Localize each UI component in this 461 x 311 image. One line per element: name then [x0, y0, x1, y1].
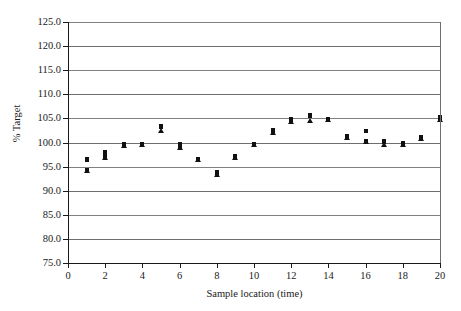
x-axis-tick-label: 4	[127, 270, 157, 281]
x-axis-tick-label: 18	[388, 270, 418, 281]
data-point-triangle	[121, 143, 127, 148]
y-axis-tick	[63, 22, 68, 23]
data-point-square	[85, 158, 89, 162]
y-gridline	[68, 94, 440, 95]
x-axis-tick-label: 20	[425, 270, 455, 281]
x-axis-tick-label: 16	[351, 270, 381, 281]
x-axis-tick-label: 6	[165, 270, 195, 281]
y-axis-tick	[63, 215, 68, 216]
y-axis-tick	[63, 94, 68, 95]
y-axis-tick	[63, 167, 68, 168]
data-point-triangle	[139, 142, 145, 147]
y-gridline	[68, 70, 440, 71]
y-axis-line	[68, 22, 69, 263]
y-gridline	[68, 191, 440, 192]
y-gridline	[68, 22, 440, 23]
y-axis-tick-label: 100.0	[18, 138, 61, 148]
data-point-triangle	[363, 139, 369, 144]
y-axis-tick-label: 125.0	[18, 17, 61, 27]
y-axis-tick	[63, 191, 68, 192]
y-axis-tick-label: 75.0	[18, 258, 61, 268]
x-axis-tick-label: 8	[202, 270, 232, 281]
y-axis-tick-label: 95.0	[18, 162, 61, 172]
data-point-triangle	[177, 145, 183, 150]
y-gridline	[68, 215, 440, 216]
data-point-triangle	[288, 119, 294, 124]
data-point-triangle	[325, 117, 331, 122]
data-point-triangle	[270, 130, 276, 135]
data-point-triangle	[158, 128, 164, 133]
x-axis-tick-label: 0	[53, 270, 83, 281]
data-point-triangle	[195, 157, 201, 162]
y-gridline	[68, 118, 440, 119]
y-axis-tick	[63, 46, 68, 47]
data-point-triangle	[344, 135, 350, 140]
data-point-triangle	[102, 155, 108, 160]
y-axis-tick	[63, 239, 68, 240]
y-axis-tick-label: 80.0	[18, 234, 61, 244]
x-axis-tick-label: 12	[276, 270, 306, 281]
data-point-triangle	[214, 172, 220, 177]
y-axis-tick	[63, 70, 68, 71]
x-axis-tick	[403, 263, 404, 268]
y-axis-tick-label: 110.0	[18, 89, 61, 99]
x-axis-tick-label: 14	[313, 270, 343, 281]
x-axis-tick	[291, 263, 292, 268]
y-axis-tick	[63, 143, 68, 144]
x-axis-tick	[68, 263, 69, 268]
plot-right-border	[440, 22, 441, 263]
y-axis-tick-label: 120.0	[18, 41, 61, 51]
y-axis-tick-label: 85.0	[18, 210, 61, 220]
data-point-square	[364, 129, 368, 133]
y-axis-tick-label: 90.0	[18, 186, 61, 196]
x-axis-tick	[366, 263, 367, 268]
x-axis-tick-label: 10	[239, 270, 269, 281]
y-gridline	[68, 46, 440, 47]
y-axis-tick-label: 105.0	[18, 113, 61, 123]
scatter-chart: % Target Sample location (time) 75.080.0…	[0, 0, 461, 311]
x-axis-title: Sample location (time)	[68, 288, 441, 299]
data-point-triangle	[251, 142, 257, 147]
y-axis-tick	[63, 118, 68, 119]
data-point-triangle	[84, 168, 90, 173]
y-axis-tick-label: 115.0	[18, 65, 61, 75]
data-point-triangle	[307, 118, 313, 123]
x-axis-tick	[105, 263, 106, 268]
y-gridline	[68, 167, 440, 168]
x-axis-tick	[217, 263, 218, 268]
data-point-triangle	[400, 142, 406, 147]
x-axis-tick	[142, 263, 143, 268]
y-gridline	[68, 239, 440, 240]
data-point-triangle	[232, 155, 238, 160]
plot-area	[68, 22, 440, 263]
x-axis-tick	[180, 263, 181, 268]
x-axis-tick	[254, 263, 255, 268]
x-axis-tick	[440, 263, 441, 268]
x-axis-tick-label: 2	[90, 270, 120, 281]
x-axis-tick	[328, 263, 329, 268]
data-point-triangle	[381, 142, 387, 147]
data-point-triangle	[418, 136, 424, 141]
